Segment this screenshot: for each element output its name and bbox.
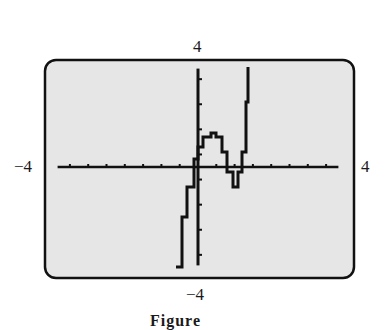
ymax-label: 4 [193, 38, 202, 55]
figure-caption: Figure [150, 312, 201, 330]
xmax-label: 4 [361, 158, 370, 175]
xmin-label: −4 [14, 158, 32, 175]
ymin-label: −4 [186, 286, 204, 303]
